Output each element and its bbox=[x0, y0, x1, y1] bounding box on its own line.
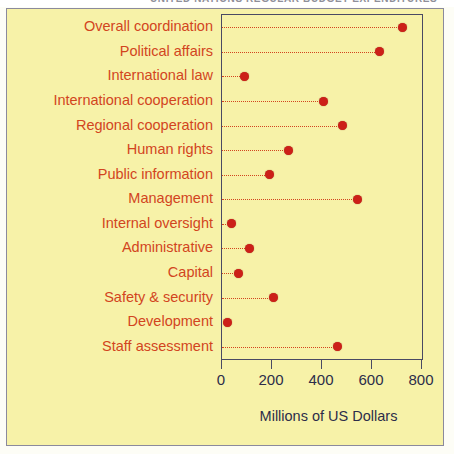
leader-line bbox=[222, 273, 233, 274]
x-axis-tick bbox=[421, 360, 422, 369]
data-point bbox=[333, 342, 342, 351]
x-axis-tick-label: 400 bbox=[308, 371, 333, 388]
leader-line bbox=[222, 101, 318, 102]
x-axis-tick bbox=[221, 360, 222, 369]
data-point bbox=[375, 47, 384, 56]
category-label: International cooperation bbox=[8, 93, 213, 108]
data-point bbox=[338, 121, 347, 130]
data-point bbox=[245, 244, 254, 253]
x-axis-tick-label: 0 bbox=[217, 371, 225, 388]
data-point bbox=[240, 72, 249, 81]
data-point bbox=[234, 269, 243, 278]
category-label: Overall coordination bbox=[8, 19, 213, 34]
leader-line bbox=[222, 248, 245, 249]
category-label: Capital bbox=[8, 265, 213, 280]
cut-off-caption-strip: UNITED NATIONS REGULAR BUDGET EXPENDITUR… bbox=[0, 0, 454, 7]
leader-line bbox=[222, 76, 240, 77]
category-label: Administrative bbox=[8, 240, 213, 255]
leader-line bbox=[222, 224, 226, 225]
x-axis-tick-label: 200 bbox=[258, 371, 283, 388]
data-point bbox=[398, 23, 407, 32]
data-point bbox=[353, 195, 362, 204]
category-label: Safety & security bbox=[8, 290, 213, 305]
leader-line bbox=[222, 199, 352, 200]
data-point bbox=[227, 219, 236, 228]
category-label: Regional cooperation bbox=[8, 118, 213, 133]
category-label: Public information bbox=[8, 167, 213, 182]
leader-line bbox=[222, 347, 332, 348]
x-axis-tick-label: 800 bbox=[408, 371, 433, 388]
leader-line bbox=[222, 27, 397, 28]
x-axis-tick bbox=[321, 360, 322, 369]
data-point bbox=[265, 170, 274, 179]
category-label: Internal oversight bbox=[8, 216, 213, 231]
leader-line bbox=[222, 150, 283, 151]
category-label: Political affairs bbox=[8, 44, 213, 59]
x-axis: 0200400600800 bbox=[221, 360, 421, 408]
category-label: Staff assessment bbox=[8, 339, 213, 354]
leader-line bbox=[222, 175, 265, 176]
category-axis-labels: Overall coordinationPolitical affairsInt… bbox=[8, 10, 213, 350]
category-label: International law bbox=[8, 68, 213, 83]
plot-area bbox=[221, 14, 423, 360]
data-point bbox=[223, 318, 232, 327]
leader-line bbox=[222, 126, 337, 127]
leader-line bbox=[222, 298, 268, 299]
data-point bbox=[269, 293, 278, 302]
category-label: Management bbox=[8, 191, 213, 206]
x-axis-tick bbox=[371, 360, 372, 369]
leader-line bbox=[222, 52, 375, 53]
data-point bbox=[319, 97, 328, 106]
x-axis-title: Millions of US Dollars bbox=[221, 408, 436, 424]
x-axis-tick-label: 600 bbox=[358, 371, 383, 388]
category-label: Development bbox=[8, 314, 213, 329]
data-point bbox=[284, 146, 293, 155]
plot-points-layer bbox=[222, 15, 422, 359]
chart-figure: UNITED NATIONS REGULAR BUDGET EXPENDITUR… bbox=[0, 0, 454, 454]
category-label: Human rights bbox=[8, 142, 213, 157]
cut-off-caption-text: UNITED NATIONS REGULAR BUDGET EXPENDITUR… bbox=[150, 0, 437, 4]
x-axis-tick bbox=[271, 360, 272, 369]
